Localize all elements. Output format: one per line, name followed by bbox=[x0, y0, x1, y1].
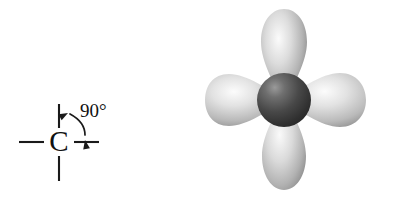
carbon-atom-label: C bbox=[49, 125, 68, 157]
skeletal-structure-svg: C 90° bbox=[0, 0, 199, 200]
orbital-diagram-svg bbox=[199, 0, 398, 200]
skeletal-structure-panel: C 90° bbox=[0, 0, 199, 200]
chemistry-figure: C 90° bbox=[0, 0, 398, 200]
orbital-diagram-panel bbox=[199, 0, 398, 200]
angle-arrow-head-top bbox=[58, 110, 69, 120]
angle-value-label: 90° bbox=[80, 100, 107, 121]
orbital-nucleus-sphere bbox=[257, 73, 311, 127]
angle-arrow-head-bottom bbox=[82, 139, 90, 149]
